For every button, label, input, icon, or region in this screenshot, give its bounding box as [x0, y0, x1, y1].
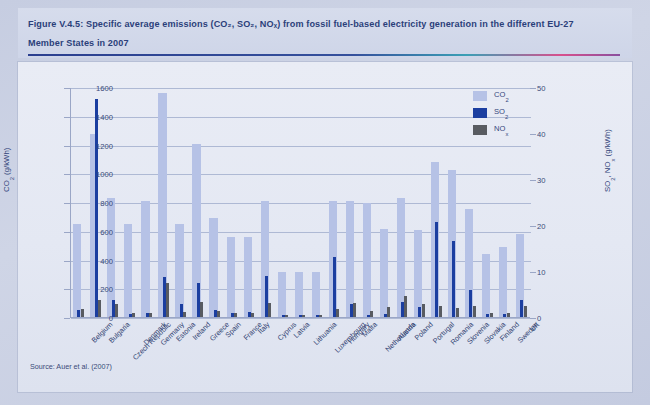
plot-area: [70, 88, 530, 318]
y-tickmark-left-1000: [64, 174, 70, 175]
bar-nox: [115, 304, 118, 317]
bar-nox: [353, 303, 356, 317]
bar-so2: [452, 241, 455, 317]
bar-group: [141, 87, 158, 317]
y-axis-right-label: SO2, NOx (g/kWh): [603, 129, 614, 192]
bar-group: [414, 87, 431, 317]
y-tickmark-right-20: [530, 226, 536, 227]
bar-group: [312, 87, 329, 317]
bar-nox: [183, 312, 186, 317]
bar-co2: [482, 254, 490, 317]
bar-group: [158, 87, 175, 317]
bar-nox: [149, 313, 152, 317]
bar-co2: [141, 201, 149, 317]
bar-co2: [227, 237, 235, 318]
legend-swatch-nox: [473, 125, 487, 135]
y-tick-left-800: 800: [67, 199, 113, 208]
bar-group: [346, 87, 363, 317]
bar-group: [431, 87, 448, 317]
bar-nox: [251, 313, 254, 317]
bar-co2: [346, 201, 354, 317]
bar-group: [363, 87, 380, 317]
source-note: Source: Auer et al. (2007): [30, 362, 112, 371]
y-tick-left-400: 400: [67, 257, 113, 266]
bar-group: [227, 87, 244, 317]
bar-nox: [200, 302, 203, 317]
bar-group: [261, 87, 278, 317]
bar-group: [278, 87, 295, 317]
bar-nox: [422, 304, 425, 317]
figure-title-line2: Member States in 2007: [28, 38, 129, 48]
y-tickmark-left-800: [64, 203, 70, 204]
y-tickmark-left-1400: [64, 117, 70, 118]
bar-group: [380, 87, 397, 317]
bar-nox: [473, 306, 476, 318]
bar-co2: [295, 272, 303, 317]
bar-nox: [524, 306, 527, 317]
y-tickmark-left-600: [64, 232, 70, 233]
legend-label-nox: NOx: [494, 124, 508, 135]
bar-nox: [132, 313, 135, 317]
bar-so2: [435, 222, 438, 317]
bar-nox: [234, 313, 237, 317]
bar-nox: [387, 307, 390, 317]
bar-co2: [175, 224, 183, 317]
legend-item-nox: NOx: [473, 124, 573, 138]
title-rule: [28, 54, 620, 56]
bar-nox: [285, 315, 288, 317]
bar-nox: [456, 308, 459, 317]
y-tickmark-right-10: [530, 272, 536, 273]
bar-nox: [507, 313, 510, 317]
y-tick-left-600: 600: [67, 228, 113, 237]
bar-co2: [244, 237, 252, 317]
y-tickmark-right-0: [530, 318, 536, 319]
gridline-0: [71, 318, 531, 319]
y-axis-left-label: CO2 (g/kWh): [2, 148, 13, 192]
bar-group: [244, 87, 261, 317]
bar-nox: [370, 311, 373, 317]
x-tick-label: Austria: [395, 320, 417, 342]
bar-nox: [439, 306, 442, 317]
bar-nox: [217, 311, 220, 317]
y-tick-right-30: 30: [537, 176, 577, 185]
legend-label-co2: CO2: [494, 90, 509, 101]
bar-group: [124, 87, 141, 317]
y-tickmark-left-200: [64, 289, 70, 290]
y-tick-left-200: 200: [67, 285, 113, 294]
y-tick-left-1600: 1600: [67, 84, 113, 93]
y-tick-left-1000: 1000: [67, 170, 113, 179]
x-axis-labels: BelgiumBulgariaCzech RepublicDenmarkGerm…: [70, 320, 530, 380]
bar-co2: [278, 272, 286, 317]
bar-group: [329, 87, 346, 317]
bar-nox: [166, 283, 169, 317]
bar-group: [448, 87, 465, 317]
y-tick-left-1200: 1200: [67, 142, 113, 151]
y-tick-right-10: 10: [537, 268, 577, 277]
bar-co2: [380, 229, 388, 317]
bar-co2: [363, 203, 371, 317]
legend-swatch-so2: [473, 108, 487, 118]
y-tickmark-left-0: [64, 318, 70, 319]
y-tick-right-0: 0: [537, 314, 577, 323]
y-tickmark-right-50: [530, 88, 536, 89]
legend-item-so2: SO2: [473, 107, 573, 121]
chart-legend: CO2 SO2 NOx: [473, 90, 573, 141]
legend-item-co2: CO2: [473, 90, 573, 104]
y-tick-right-20: 20: [537, 222, 577, 231]
y-tickmark-right-30: [530, 180, 536, 181]
y-tickmark-left-400: [64, 261, 70, 262]
x-tick-label: Lithuania: [312, 320, 339, 347]
bar-co2: [209, 218, 217, 317]
bar-nox: [302, 315, 305, 317]
bar-nox: [319, 315, 322, 317]
y-tick-left-1400: 1400: [67, 113, 113, 122]
bar-nox: [268, 303, 271, 317]
figure-header: Figure V.4.5: Specific average emissions…: [18, 8, 632, 58]
legend-label-so2: SO2: [494, 107, 508, 118]
figure-title: Figure V.4.5: Specific average emissions…: [28, 15, 622, 53]
bar-nox: [490, 313, 493, 317]
figure-title-line1: Figure V.4.5: Specific average emissions…: [28, 19, 574, 29]
y-tickmark-left-1200: [64, 146, 70, 147]
bar-group: [175, 87, 192, 317]
y-tickmark-left-1600: [64, 88, 70, 89]
